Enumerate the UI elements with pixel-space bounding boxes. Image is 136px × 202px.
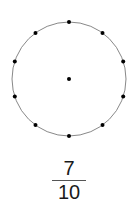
circle-point	[121, 95, 125, 99]
circle-point	[13, 95, 17, 99]
circle-point	[121, 59, 125, 63]
circle-point	[33, 31, 37, 35]
center-point	[67, 77, 71, 81]
circle-diagram	[0, 0, 136, 150]
circle-point	[67, 134, 71, 138]
fraction: 7 10	[52, 157, 86, 202]
circle-point	[101, 123, 105, 127]
fraction-denominator: 10	[52, 182, 86, 202]
fraction-numerator: 7	[52, 157, 86, 179]
circle-point	[67, 20, 71, 24]
circle-point	[33, 123, 37, 127]
circle-point	[13, 59, 17, 63]
circle-point	[101, 31, 105, 35]
